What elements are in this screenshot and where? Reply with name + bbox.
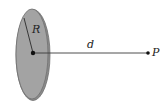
radius-label: R — [31, 23, 40, 36]
charged-disc-diagram: R d P — [0, 0, 168, 104]
disc-center-dot — [31, 51, 35, 55]
point-p-dot — [146, 51, 150, 55]
point-label: P — [151, 46, 160, 59]
distance-label: d — [87, 38, 94, 51]
